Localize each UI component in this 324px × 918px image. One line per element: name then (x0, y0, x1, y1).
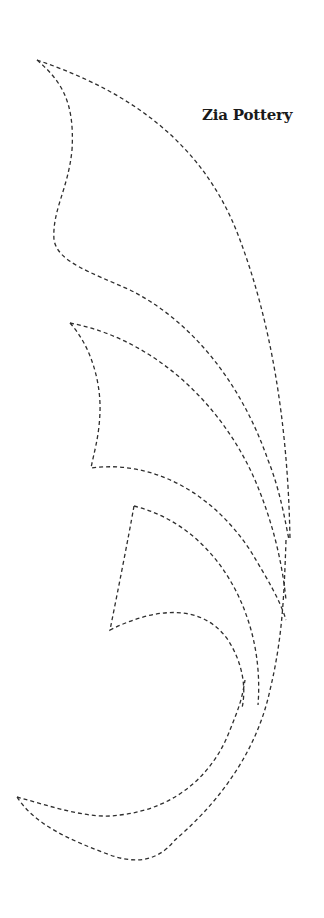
upper-middle-segment-outline (70, 323, 286, 600)
bottom-segment-outline (17, 540, 286, 860)
top-segment-inner (37, 60, 289, 540)
pattern-page: Zia Pottery (0, 0, 324, 918)
upper-middle-segment-inner (70, 323, 286, 620)
bottom-segment-inner (17, 680, 245, 816)
lower-middle-segment-inner (110, 506, 244, 708)
feather-pattern-outline (0, 0, 324, 918)
top-segment-outline (37, 60, 290, 540)
